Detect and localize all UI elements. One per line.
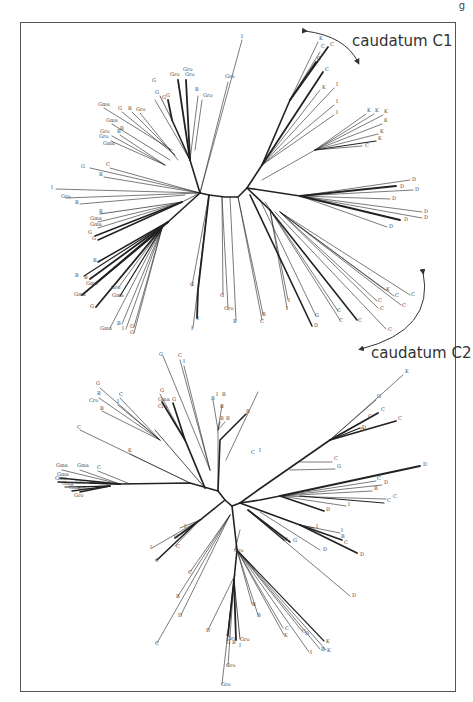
leaf-label: C (302, 628, 306, 634)
c2-arc-arrow (361, 272, 425, 349)
leaf-label: B (75, 199, 79, 205)
leaf-label: Gro (226, 662, 235, 668)
leaf-label: Gma (86, 280, 98, 286)
leaf-label: C (285, 625, 289, 631)
leaf-label: C (381, 406, 385, 412)
leaf-label: I (117, 398, 119, 404)
leaf-label: I (316, 523, 318, 529)
leaf-label: I (122, 325, 124, 331)
leaf-label: B (321, 646, 325, 652)
leaf-label: B (97, 390, 101, 396)
leaf-label: Gma (74, 291, 86, 297)
leaf-label: I (241, 33, 243, 39)
leaf-label: D (326, 506, 330, 512)
leaf-label: Gma (77, 462, 89, 468)
leaf-label: D (323, 546, 327, 552)
leaf-label: D (415, 186, 419, 192)
leaf-label: G (293, 537, 297, 543)
leaf-label: I (336, 109, 338, 115)
leaf-label: D (389, 223, 393, 229)
leaf-label: C (387, 497, 391, 503)
leaf-label: C (378, 297, 382, 303)
leaf-label: I (51, 184, 53, 190)
leaf-label: D (404, 216, 408, 222)
leaf-label: G (337, 463, 341, 469)
leaf-label: C (77, 424, 81, 430)
leaf-label: B (257, 612, 261, 618)
leaf-label: K (284, 632, 288, 638)
leaf-label: C (334, 455, 338, 461)
caudatum-c2-label: caudatum C2 (371, 344, 471, 362)
leaf-label: I (288, 297, 290, 303)
leaf-label: I (348, 501, 350, 507)
leaf-label: C (339, 317, 343, 323)
leaf-label: B (75, 272, 79, 278)
caudatum-c1-label: caudatum C1 (352, 32, 452, 50)
leaf-label: K (378, 135, 382, 141)
leaf-label: G (90, 303, 94, 309)
leaf-label: K (128, 447, 132, 453)
leaf-label: B (93, 257, 97, 263)
leaf-label: K (327, 647, 331, 653)
leaf-label: D (206, 627, 210, 633)
leaf-label: C (388, 326, 392, 332)
leaf-label: Gma (78, 485, 90, 491)
leaf-label: Cro (158, 403, 167, 409)
tree-bottom (58, 356, 420, 684)
leaf-label: C (155, 640, 159, 646)
leaf-label: B (117, 320, 121, 326)
leaf-label: B (262, 311, 266, 317)
leaf-label: C (106, 161, 110, 167)
phylogenetic-figure: IGroGroGroGroGBGroGGGGmaGBGroGmaGroBBGro… (0, 0, 473, 702)
leaf-label: Gma (100, 325, 112, 331)
leaf-label: C (344, 539, 348, 545)
leaf-label: Cro (89, 397, 98, 403)
leaf-label: G (172, 396, 176, 402)
leaf-label: K (322, 84, 326, 90)
leaf-label: C (321, 43, 325, 49)
leaf-label: C (368, 413, 372, 419)
leaf-label: Gro (185, 71, 194, 77)
leaf-label: D (424, 214, 428, 220)
leaf-label: K (367, 107, 371, 113)
leaf-label: B (222, 391, 226, 397)
leaf-label: C (260, 318, 264, 324)
leaf-label: K (384, 117, 388, 123)
leaf-label: C (330, 41, 334, 47)
leaf-label: Gma (56, 462, 68, 468)
leaf-label: C (395, 292, 399, 298)
leaf-label: Gro (240, 636, 249, 642)
leaf-label: C (411, 291, 415, 297)
leaf-label: I (183, 358, 185, 364)
leaf-label: G (81, 163, 85, 169)
leaf-label: K (384, 108, 388, 114)
leaf-label: G (160, 387, 164, 393)
leaf-label: G (92, 235, 96, 241)
leaf-label: K (405, 368, 409, 374)
leaf-label: G (377, 393, 381, 399)
leaf-label: G (190, 281, 194, 287)
leaf-label: D (178, 612, 182, 618)
leaf-label: K (319, 35, 323, 41)
leaf-label: I (336, 98, 338, 104)
leaf-label: C (155, 557, 159, 563)
leaf-label: Gro (225, 73, 234, 79)
leaf-label: B (252, 601, 256, 607)
leaf-label: I (150, 544, 152, 550)
leaf-label: C (402, 302, 406, 308)
leaf-label: Gro (203, 92, 212, 98)
leaf-label: D (314, 322, 318, 328)
leaf-label: B (99, 171, 103, 177)
leaf-label: C (325, 66, 329, 72)
leaf-label: D (400, 183, 404, 189)
leaf-label: Gro (224, 305, 233, 311)
leaf-label: B (128, 105, 132, 111)
leaf-label: I (191, 325, 193, 331)
leaf-label: D (423, 461, 427, 467)
leaf-label: C (398, 415, 402, 421)
leaf-label: K (380, 128, 384, 134)
leaf-label: C (337, 307, 341, 313)
leaf-label: B (220, 403, 224, 409)
leaf-label: B (176, 593, 180, 599)
leaf-label: Gro (136, 106, 145, 112)
